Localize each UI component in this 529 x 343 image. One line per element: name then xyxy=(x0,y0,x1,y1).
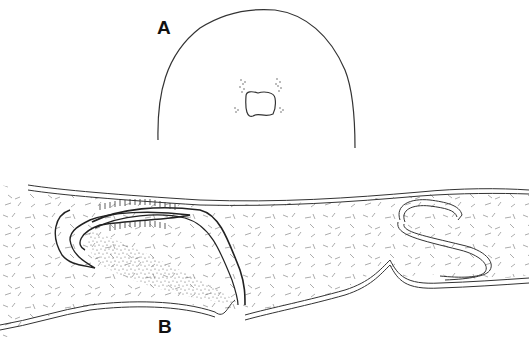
panel-label-b: B xyxy=(158,316,172,338)
panel-b-drawing xyxy=(0,185,529,343)
stipple-clusters xyxy=(234,78,284,113)
panel-a-drawing xyxy=(158,10,355,148)
panel-label-a: A xyxy=(157,17,171,39)
figure-drawing xyxy=(0,0,529,343)
